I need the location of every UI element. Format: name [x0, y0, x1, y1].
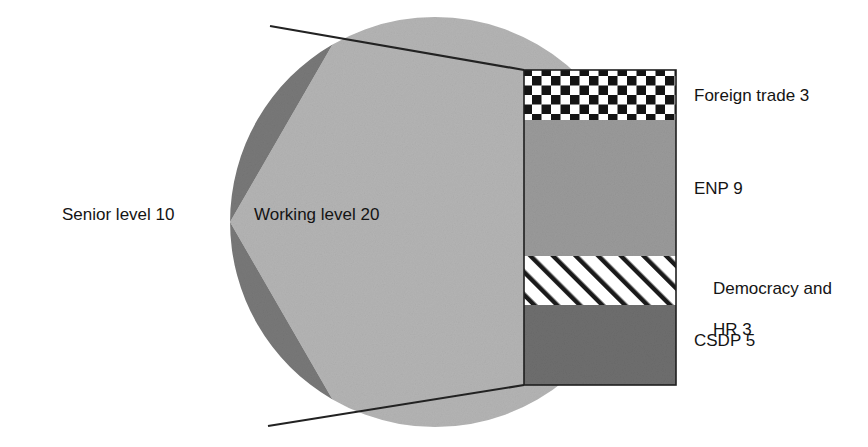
exploded-stacked-bar [524, 70, 676, 385]
bar-segment-enp [524, 120, 676, 256]
bar-label-csdp: CSDP 5 [694, 331, 755, 352]
pie-label-senior-level: Senior level 10 [62, 205, 174, 226]
pie-label-working-level: Working level 20 [254, 205, 379, 226]
bar-label-enp: ENP 9 [694, 179, 743, 200]
bar-segment-foreign-trade [524, 70, 676, 120]
pie-with-exploded-bar-figure: Senior level 10 Working level 20 Foreign… [0, 0, 868, 447]
bar-label-democracy-and-hr-line1: Democracy and [713, 279, 832, 298]
bar-segment-csdp [524, 305, 676, 385]
bar-segment-democracy-and-hr [524, 256, 676, 305]
bar-label-foreign-trade: Foreign trade 3 [694, 86, 809, 107]
